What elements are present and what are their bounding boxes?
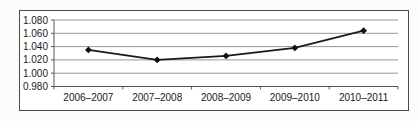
y-tick-label: 1.080 bbox=[23, 15, 48, 26]
y-tick-label: 0.980 bbox=[23, 81, 48, 92]
line-chart: 0.9801.0001.0201.0401.0601.0802006–20072… bbox=[0, 0, 418, 121]
y-tick-label: 1.060 bbox=[23, 28, 48, 39]
chart-screenshot: 0.9801.0001.0201.0401.0601.0802006–20072… bbox=[0, 0, 418, 121]
x-category-label: 2007–2008 bbox=[132, 92, 182, 103]
x-category-label: 2009–2010 bbox=[270, 92, 320, 103]
x-category-label: 2006–2007 bbox=[63, 92, 113, 103]
x-category-label: 2010–2011 bbox=[339, 92, 389, 103]
y-tick-label: 1.000 bbox=[23, 68, 48, 79]
y-tick-label: 1.040 bbox=[23, 41, 48, 52]
y-tick-label: 1.020 bbox=[23, 54, 48, 65]
x-category-label: 2008–2009 bbox=[201, 92, 251, 103]
